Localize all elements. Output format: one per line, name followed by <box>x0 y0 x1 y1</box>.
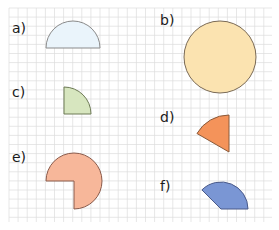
circle-shape <box>184 21 256 93</box>
label-a: a) <box>12 20 26 36</box>
label-b: b) <box>160 12 174 28</box>
shape-f-group: f) <box>160 178 248 209</box>
label-e: e) <box>12 149 26 165</box>
semicircle-shape <box>46 21 100 48</box>
sector-shape-d <box>197 115 229 152</box>
quarter-circle-shape <box>64 87 91 114</box>
shape-a-group: a) <box>12 20 100 48</box>
label-d: d) <box>160 109 174 125</box>
label-c: c) <box>12 84 25 100</box>
shape-e-group: e) <box>12 149 102 209</box>
label-f: f) <box>160 178 170 194</box>
shapes-worksheet: a) b) c) d) e) f) <box>0 0 279 230</box>
sector-shape-f <box>202 182 248 209</box>
